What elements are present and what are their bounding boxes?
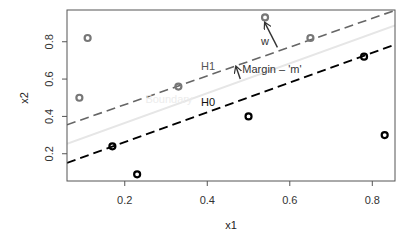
x-tick-label: 0.6 bbox=[282, 194, 297, 206]
point-class-gray bbox=[85, 35, 91, 41]
label-h0: H0 bbox=[201, 96, 215, 108]
margin-annotation-label: Margin – 'm' bbox=[242, 63, 301, 75]
y-tick-label: 0.8 bbox=[43, 34, 55, 49]
point-class-black bbox=[246, 113, 252, 119]
svm-margin-scatter-chart: H1BoundaryH0 wMargin – 'm' 0.20.40.60.8 … bbox=[0, 0, 411, 241]
annotations: wMargin – 'm' bbox=[236, 23, 301, 79]
data-points bbox=[76, 14, 387, 177]
x-tick-label: 0.2 bbox=[117, 194, 132, 206]
w-annotation-label: w bbox=[260, 35, 269, 47]
x-tick-label: 0.4 bbox=[200, 194, 215, 206]
line-h1 bbox=[67, 10, 395, 124]
y-axis: 0.20.40.60.8 bbox=[43, 34, 67, 161]
point-class-gray bbox=[76, 95, 82, 101]
y-tick-label: 0.4 bbox=[43, 109, 55, 124]
x-tick-label: 0.8 bbox=[365, 194, 380, 206]
plot-frame bbox=[67, 10, 395, 181]
y-tick-label: 0.2 bbox=[43, 146, 55, 161]
line-boundary bbox=[67, 25, 395, 143]
point-class-gray bbox=[262, 14, 268, 20]
y-axis-title: x2 bbox=[18, 92, 30, 104]
point-class-black bbox=[134, 171, 140, 177]
point-class-black bbox=[361, 54, 367, 60]
label-h1: H1 bbox=[201, 60, 215, 72]
point-class-gray bbox=[307, 35, 313, 41]
label-boundary: Boundary bbox=[145, 93, 193, 105]
margin-arrow-icon bbox=[236, 67, 240, 79]
point-class-black bbox=[382, 132, 388, 138]
x-axis: 0.20.40.60.8 bbox=[117, 181, 380, 206]
y-tick-label: 0.6 bbox=[43, 71, 55, 86]
decision-lines bbox=[67, 10, 395, 163]
x-axis-title: x1 bbox=[225, 219, 237, 231]
